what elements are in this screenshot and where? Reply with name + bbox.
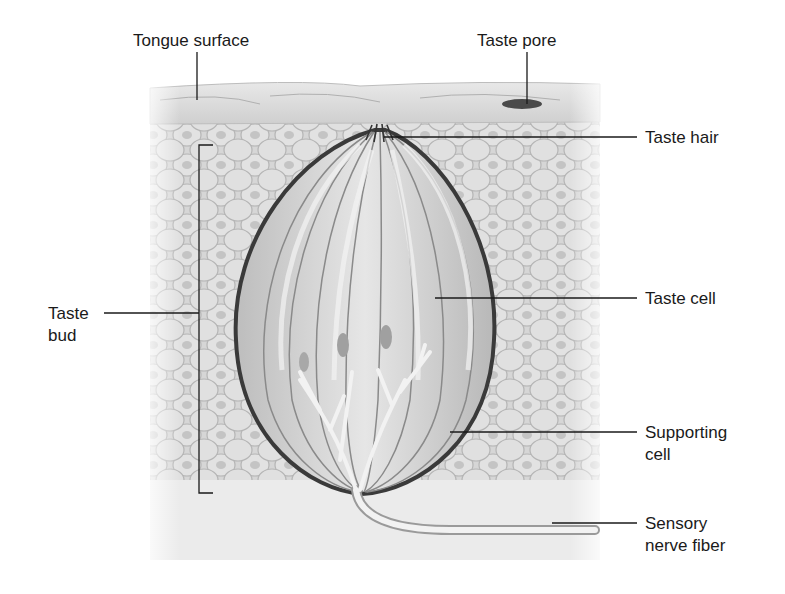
- label-taste-bud-line2: bud: [48, 326, 76, 345]
- label-taste-pore: Taste pore: [477, 31, 556, 50]
- label-sensory-nerve-line2: nerve fiber: [645, 536, 726, 555]
- label-tongue-surface: Tongue surface: [133, 31, 249, 50]
- label-supporting-cell-line2: cell: [645, 445, 671, 464]
- label-taste-cell: Taste cell: [645, 289, 716, 308]
- taste-pore: [502, 99, 542, 109]
- taste-bud-diagram: Tongue surface Taste pore Taste hair Tas…: [0, 0, 785, 594]
- label-supporting-cell-line1: Supporting: [645, 423, 727, 442]
- label-taste-bud-line1: Taste: [48, 304, 89, 323]
- label-sensory-nerve-line1: Sensory: [645, 514, 708, 533]
- label-taste-hair: Taste hair: [645, 128, 719, 147]
